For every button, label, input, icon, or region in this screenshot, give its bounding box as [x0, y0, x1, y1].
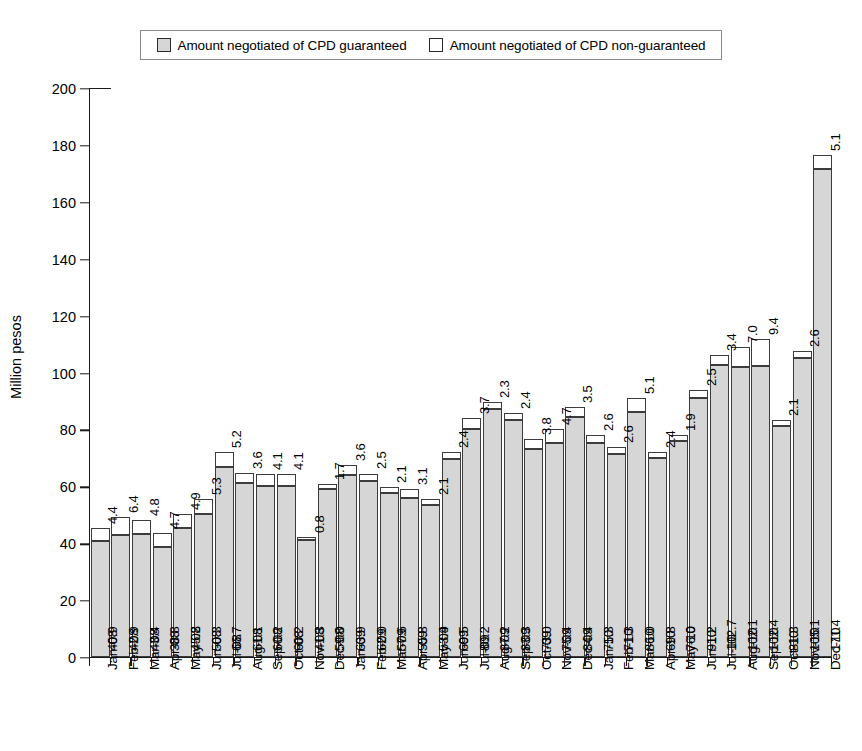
bar-segment-guaranteed[interactable]	[813, 169, 832, 657]
bar-Dec-09[interactable]	[565, 407, 584, 657]
x-axis-tick-mark	[130, 658, 131, 666]
bar-value-non-guaranteed: 4.9	[188, 493, 203, 510]
bar-segment-non-guaranteed[interactable]	[215, 452, 234, 467]
bar-Dec-10[interactable]	[813, 155, 832, 657]
x-axis-tick-label: Aug-09	[497, 628, 512, 670]
bar-segment-guaranteed[interactable]	[731, 367, 750, 657]
y-axis-tick-label: 40	[60, 536, 76, 552]
bar-segment-non-guaranteed[interactable]	[256, 474, 275, 486]
y-axis-tick-mark	[80, 657, 89, 658]
bar-segment-non-guaranteed[interactable]	[380, 487, 399, 493]
bar-segment-non-guaranteed[interactable]	[524, 439, 543, 450]
bar-segment-non-guaranteed[interactable]	[793, 351, 812, 358]
x-axis-tick-mark	[708, 658, 709, 666]
bar-value-non-guaranteed: 3.6	[250, 451, 265, 468]
bar-value-non-guaranteed: 5.1	[642, 376, 657, 393]
x-axis-tick-label: Feb-08	[126, 628, 141, 670]
x-axis-tick-mark	[626, 658, 627, 666]
bar-segment-non-guaranteed[interactable]	[91, 528, 110, 541]
bar-segment-non-guaranteed[interactable]	[607, 447, 626, 454]
bar-value-non-guaranteed: 4.1	[291, 453, 306, 470]
y-axis-tick-mark	[80, 202, 89, 203]
bar-segment-guaranteed[interactable]	[504, 420, 523, 657]
bar-segment-non-guaranteed[interactable]	[359, 474, 378, 481]
plot-area	[89, 89, 832, 658]
bar-segment-non-guaranteed[interactable]	[627, 398, 646, 413]
x-axis-tick-label: Dec-08	[332, 628, 347, 670]
y-axis-tick-label: 140	[52, 252, 76, 268]
bar-segment-non-guaranteed[interactable]	[772, 420, 791, 426]
bar-value-non-guaranteed: 2.6	[601, 414, 616, 431]
x-axis-tick-mark	[584, 658, 585, 666]
bar-segment-guaranteed[interactable]	[751, 366, 770, 657]
bar-value-non-guaranteed: 3.1	[415, 468, 430, 485]
bar-segment-guaranteed[interactable]	[545, 443, 564, 658]
bar-Jul-09[interactable]	[462, 418, 481, 657]
bar-Sep-10[interactable]	[751, 339, 770, 657]
y-axis-tick-label: 80	[60, 422, 76, 438]
bar-segment-guaranteed[interactable]	[627, 412, 646, 657]
x-axis-tick-label: Nov-10	[807, 628, 822, 670]
bar-segment-non-guaranteed[interactable]	[421, 499, 440, 505]
bar-segment-non-guaranteed[interactable]	[153, 533, 172, 546]
chart-legend: Amount negotiated of CPD guaranteed Amou…	[140, 30, 722, 60]
bar-segment-non-guaranteed[interactable]	[648, 452, 667, 459]
x-axis-tick-label: Jan-08	[105, 630, 120, 670]
bar-Aug-10[interactable]	[731, 347, 750, 657]
non-guaranteed-swatch-icon	[429, 38, 443, 52]
x-axis-tick-mark	[481, 658, 482, 666]
x-axis-tick-mark	[770, 658, 771, 666]
bar-segment-non-guaranteed[interactable]	[586, 435, 605, 442]
bar-segment-non-guaranteed[interactable]	[442, 452, 461, 459]
bar-May-10[interactable]	[669, 435, 688, 657]
x-axis-tick-mark	[543, 658, 544, 666]
bar-segment-non-guaranteed[interactable]	[318, 484, 337, 489]
bar-segment-non-guaranteed[interactable]	[400, 489, 419, 498]
x-axis-tick-mark	[89, 658, 90, 666]
bar-segment-non-guaranteed[interactable]	[132, 520, 151, 534]
x-axis-tick-label: Oct-08	[291, 631, 306, 670]
x-axis-tick-label: Sep-08	[270, 628, 285, 670]
bar-value-non-guaranteed: 2.4	[456, 431, 471, 448]
bar-segment-guaranteed[interactable]	[462, 429, 481, 657]
x-axis-tick-label: Oct-09	[539, 631, 554, 670]
legend-item-non-guaranteed: Amount negotiated of CPD non-guaranteed	[429, 38, 706, 53]
bar-Feb-10[interactable]	[607, 447, 626, 657]
bar-Nov-10[interactable]	[793, 351, 812, 657]
bar-segment-non-guaranteed[interactable]	[710, 355, 729, 365]
bar-segment-guaranteed[interactable]	[710, 365, 729, 657]
bar-segment-non-guaranteed[interactable]	[235, 473, 254, 483]
bar-Jul-10[interactable]	[710, 355, 729, 657]
bar-Nov-09[interactable]	[545, 429, 564, 657]
bar-value-non-guaranteed: 2.1	[394, 466, 409, 483]
bar-segment-non-guaranteed[interactable]	[689, 390, 708, 397]
bar-segment-non-guaranteed[interactable]	[297, 537, 316, 539]
bar-segment-guaranteed[interactable]	[483, 409, 502, 657]
x-axis-tick-mark	[749, 658, 750, 666]
bar-value-non-guaranteed: 2.1	[436, 478, 451, 495]
x-axis-tick-label: May-08	[188, 626, 203, 670]
x-axis-tick-mark	[172, 658, 173, 666]
bar-Sep-09[interactable]	[504, 413, 523, 657]
bar-segment-guaranteed[interactable]	[669, 441, 688, 657]
bar-segment-non-guaranteed[interactable]	[504, 413, 523, 420]
x-axis-tick-label: Jul-09	[477, 634, 492, 670]
bar-Jan-10[interactable]	[586, 435, 605, 657]
guaranteed-swatch-icon	[157, 38, 171, 52]
bar-segment-non-guaranteed[interactable]	[277, 474, 296, 486]
bar-segment-guaranteed[interactable]	[565, 417, 584, 657]
y-axis-tick-label: 200	[52, 81, 76, 97]
bar-Aug-09[interactable]	[483, 402, 502, 657]
y-axis-tick-label: 180	[52, 138, 76, 154]
bar-Oct-09[interactable]	[524, 439, 543, 657]
x-axis-tick-mark	[605, 658, 606, 666]
bar-segment-non-guaranteed[interactable]	[462, 418, 481, 429]
x-axis-tick-mark	[502, 658, 503, 666]
bar-segment-guaranteed[interactable]	[586, 443, 605, 657]
x-axis-tick-mark	[399, 658, 400, 666]
x-axis-tick-label: Mar-09	[394, 628, 409, 670]
bar-segment-non-guaranteed[interactable]	[813, 155, 832, 170]
bar-segment-guaranteed[interactable]	[689, 398, 708, 657]
x-axis-tick-label: Sep-10	[766, 628, 781, 670]
y-axis-tick-mark	[80, 600, 89, 601]
